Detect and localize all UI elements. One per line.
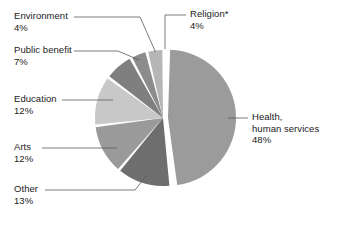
label-health-category-line1: Health, — [252, 111, 319, 123]
label-public-benefit: Public benefit 7% — [14, 44, 72, 67]
label-health-percent: 48% — [252, 134, 319, 146]
label-arts-percent: 12% — [14, 153, 33, 165]
label-public-benefit-percent: 7% — [14, 56, 72, 68]
label-religion: Religion* 4% — [190, 8, 228, 31]
label-public-benefit-category: Public benefit — [14, 44, 72, 56]
label-other: Other 13% — [14, 183, 38, 206]
label-environment-percent: 4% — [14, 22, 68, 34]
label-other-category: Other — [14, 183, 38, 195]
label-religion-category: Religion* — [190, 8, 228, 20]
label-education: Education 12% — [14, 93, 57, 116]
label-education-percent: 12% — [14, 105, 57, 117]
label-arts: Arts 12% — [14, 141, 33, 164]
label-health-category-line2: human services — [252, 123, 319, 135]
label-other-percent: 13% — [14, 195, 38, 207]
label-education-category: Education — [14, 93, 57, 105]
pie-chart-figure: Environment 4% Public benefit 7% Educati… — [0, 0, 347, 226]
label-religion-percent: 4% — [190, 20, 228, 32]
label-environment-category: Environment — [14, 10, 68, 22]
label-health-human-services: Health, human services 48% — [252, 111, 319, 146]
label-environment: Environment 4% — [14, 10, 68, 33]
label-arts-category: Arts — [14, 141, 33, 153]
